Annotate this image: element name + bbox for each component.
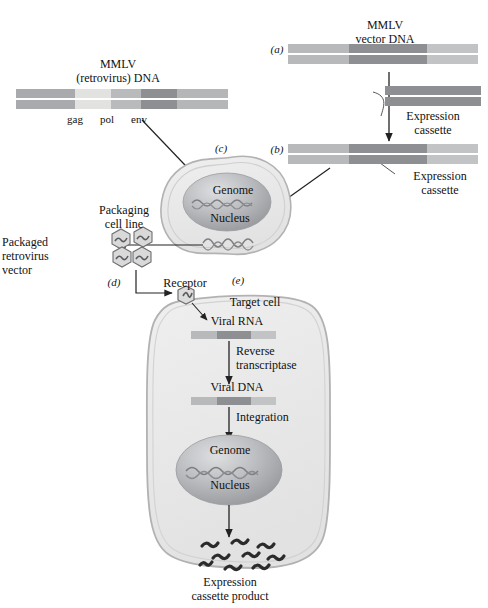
vector-a-dna-bar bbox=[288, 44, 478, 64]
packaged-vector-label-line2: retrovirus bbox=[2, 250, 92, 263]
segment-ltr-right bbox=[251, 397, 277, 405]
target-cell-title: Target cell bbox=[207, 296, 303, 309]
dna-strand-bottom bbox=[288, 55, 478, 64]
vector-b-dna-bar bbox=[288, 144, 478, 164]
segment-ltr-left bbox=[288, 144, 349, 153]
packaged-retrovirus-particles bbox=[112, 227, 152, 267]
dna-strand-top bbox=[288, 144, 478, 153]
integration-label: Integration bbox=[236, 411, 328, 424]
segment-cassette bbox=[217, 331, 251, 339]
mmlv-native-title-line1: MMLV bbox=[48, 58, 188, 71]
dna-strand-top bbox=[16, 89, 228, 98]
segment-gag bbox=[75, 100, 111, 109]
panel-label-a: (a) bbox=[267, 43, 287, 55]
packaging-cell-nucleus-label: Nucleus bbox=[194, 212, 266, 225]
expression-product-label-line2: cassette product bbox=[164, 590, 296, 603]
virus-particle bbox=[133, 247, 151, 267]
segment-ltr-right bbox=[427, 44, 478, 53]
rna-strand bbox=[191, 331, 276, 339]
viral-dna-label: Viral DNA bbox=[194, 381, 280, 394]
vector-b-callout-line1: Expression bbox=[390, 170, 488, 183]
segment-ltr-right bbox=[427, 144, 478, 153]
segment-cassette bbox=[217, 397, 251, 405]
virus-particle bbox=[113, 247, 131, 267]
expression-cassette-label-line1: Expression bbox=[383, 110, 483, 123]
mmlv-native-title-line2: (retrovirus) DNA bbox=[48, 72, 188, 85]
viral-dna-bar bbox=[191, 397, 276, 405]
segment-ltr-left bbox=[191, 331, 217, 339]
gene-label-env: env bbox=[124, 113, 154, 125]
segment-ltr-left bbox=[16, 89, 75, 98]
segment-ltr-right bbox=[177, 100, 228, 109]
expression-cassette-label-line2: cassette bbox=[383, 124, 483, 137]
segment-core bbox=[349, 55, 427, 64]
segment-cassette bbox=[349, 155, 427, 164]
product-particle bbox=[200, 562, 212, 565]
viral-rna-label: Viral RNA bbox=[194, 315, 280, 328]
segment-ltr-left bbox=[16, 100, 75, 109]
segment-ltr-right bbox=[427, 55, 478, 64]
dna-strand-bottom bbox=[288, 155, 478, 164]
segment-ltr-left bbox=[288, 155, 349, 164]
mmlv-native-dna-bar bbox=[16, 89, 228, 109]
segment-gag bbox=[75, 89, 111, 98]
segment-ltr-right bbox=[177, 89, 228, 98]
panel-label-c: (c) bbox=[211, 142, 231, 154]
product-particle bbox=[225, 566, 241, 570]
cassette-strand-top bbox=[385, 86, 481, 95]
dna-strand-top bbox=[288, 44, 478, 53]
segment-ltr-left bbox=[288, 44, 349, 53]
reverse-transcriptase-label-line2: transcriptase bbox=[236, 359, 336, 372]
panel-label-e: (e) bbox=[228, 274, 248, 286]
panel-label-b: (b) bbox=[267, 143, 287, 155]
target-cell-genome-label: Genome bbox=[194, 444, 266, 457]
vector-b-callout-line2: cassette bbox=[390, 184, 488, 197]
reverse-transcriptase-label-line1: Reverse bbox=[236, 345, 332, 358]
packaging-cell-genome-label: Genome bbox=[197, 184, 269, 197]
cassette-strand-bottom bbox=[385, 97, 481, 106]
panel-label-d: (d) bbox=[104, 276, 124, 288]
virus-particle bbox=[112, 229, 130, 249]
viral-rna-bar bbox=[191, 331, 276, 339]
packaging-cell-line-label-line2: cell line bbox=[78, 218, 170, 231]
gene-label-pol: pol bbox=[92, 113, 122, 125]
segment-pol bbox=[111, 100, 141, 109]
segment-env bbox=[141, 89, 177, 98]
segment-ltr-left bbox=[288, 55, 349, 64]
segment-ltr-right bbox=[427, 155, 478, 164]
segment-cassette bbox=[385, 86, 481, 95]
receptor-label: Receptor bbox=[150, 277, 220, 290]
target-cell-nucleus-label: Nucleus bbox=[194, 479, 266, 492]
dna-strand bbox=[191, 397, 276, 405]
dna-strand-bottom bbox=[16, 100, 228, 109]
segment-core bbox=[349, 44, 427, 53]
expression-cassette-block bbox=[385, 86, 481, 106]
segment-env bbox=[141, 100, 177, 109]
expression-product-label-line1: Expression bbox=[174, 576, 286, 589]
packaging-cell-line-label-line1: Packaging bbox=[78, 204, 170, 217]
segment-ltr-left bbox=[191, 397, 217, 405]
segment-cassette bbox=[349, 144, 427, 153]
segment-pol bbox=[111, 89, 141, 98]
packaged-vector-label-line3: vector bbox=[2, 264, 92, 277]
vector-a-title-line1: MMLV bbox=[320, 19, 450, 32]
figure-canvas: MMLV (retrovirus) DNA gag pol env MMLV v… bbox=[0, 0, 488, 608]
segment-cassette bbox=[385, 97, 481, 106]
gene-label-gag: gag bbox=[60, 113, 90, 125]
packaged-vector-label-line1: Packaged bbox=[2, 236, 92, 249]
segment-ltr-right bbox=[251, 331, 277, 339]
